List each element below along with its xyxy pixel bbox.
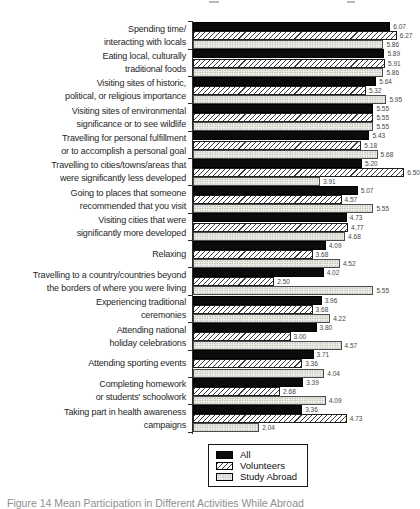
bar-all <box>193 378 303 387</box>
value-label: 3.36 <box>305 360 318 368</box>
value-label: 5.43 <box>372 132 385 140</box>
value-label: 4.57 <box>345 196 358 204</box>
legend-item-volunteers: Volunteers <box>216 460 307 471</box>
value-label: 3.36 <box>305 406 318 414</box>
axis-tick <box>188 267 192 268</box>
legend-swatch-volunteers <box>216 462 233 470</box>
value-label: 5.86 <box>386 69 399 77</box>
value-label: 5.18 <box>364 142 377 150</box>
value-label: 3.68 <box>316 251 329 259</box>
value-label: 5.68 <box>381 151 394 159</box>
category-label: Completing homeworkor students' schoolwo… <box>0 378 186 404</box>
legend-swatch-all <box>216 451 233 459</box>
value-label: 4.09 <box>329 242 342 250</box>
bar-study-abroad <box>193 68 383 77</box>
bar-all <box>193 104 373 113</box>
bar-study-abroad <box>193 341 342 350</box>
value-label: 2.68 <box>283 388 296 396</box>
bar-volunteers <box>193 414 347 423</box>
bar-all <box>193 131 369 140</box>
axis-tick <box>188 131 192 132</box>
value-label: 5.91 <box>388 60 401 68</box>
category-label: Visiting sites of historic,political, or… <box>0 77 186 103</box>
category-label: Attending nationalholiday celebrations <box>0 324 186 350</box>
bar-volunteers <box>193 387 280 396</box>
bar-volunteers <box>193 277 274 286</box>
category-label: Experiencing traditionalceremonies <box>0 296 186 322</box>
value-label: 4.73 <box>350 214 363 222</box>
axis-tick <box>188 240 192 241</box>
bar-volunteers <box>193 250 313 259</box>
axis-tick <box>188 49 192 50</box>
category-label: Spending time/interacting with locals <box>0 23 186 49</box>
value-label: 5.20 <box>365 160 378 168</box>
bar-all <box>193 241 326 250</box>
value-label: 3.68 <box>316 306 329 314</box>
value-label: 5.55 <box>376 205 389 213</box>
bar-volunteers <box>193 332 291 341</box>
value-label: 5.55 <box>376 123 389 131</box>
value-label: 3.71 <box>317 351 330 359</box>
bar-all <box>193 49 384 58</box>
axis-tick <box>188 185 192 186</box>
legend-item-study-abroad: Study Abroad <box>216 471 307 482</box>
value-label: 4.52 <box>343 260 356 268</box>
category-label: Travelling to a country/countries beyond… <box>0 269 186 295</box>
bar-study-abroad <box>193 369 324 378</box>
value-label: 2.50 <box>277 278 290 286</box>
bar-volunteers <box>193 195 342 204</box>
value-label: 5.07 <box>361 187 374 195</box>
legend-item-all: All <box>216 449 307 460</box>
value-label: 6.07 <box>393 23 406 31</box>
category-label: Attending sporting events <box>0 357 186 370</box>
bar-all <box>193 213 347 222</box>
value-label: 5.64 <box>379 78 392 86</box>
value-label: 5.86 <box>386 41 399 49</box>
bar-study-abroad <box>193 150 378 159</box>
bar-study-abroad <box>193 177 320 186</box>
category-label: Taking part in health awarenesscampaigns <box>0 406 186 432</box>
bar-study-abroad <box>193 95 386 104</box>
bar-volunteers <box>193 113 373 122</box>
category-label: Travelling to cities/towns/areas thatwer… <box>0 159 186 185</box>
value-label: 5.55 <box>376 114 389 122</box>
bar-volunteers <box>193 359 302 368</box>
legend-label-all: All <box>240 449 251 460</box>
bar-all <box>193 22 390 31</box>
axis-tick <box>188 295 192 296</box>
bar-all <box>193 159 362 168</box>
bar-study-abroad <box>193 423 259 432</box>
value-label: 5.89 <box>387 50 400 58</box>
bar-all <box>193 186 358 195</box>
legend-label-volunteers: Volunteers <box>240 460 285 471</box>
chart-legend: All Volunteers Study Abroad <box>208 444 308 487</box>
value-label: 4.22 <box>333 315 346 323</box>
value-label: 4.73 <box>350 415 363 423</box>
value-label: 3.80 <box>320 324 333 332</box>
axis-tick <box>188 377 192 378</box>
axis-tick <box>188 103 192 104</box>
axis-tick <box>188 158 192 159</box>
value-label: 3.91 <box>323 178 336 186</box>
value-label: 3.96 <box>325 297 338 305</box>
value-label: 6.27 <box>400 32 413 40</box>
value-label: 5.55 <box>376 105 389 113</box>
axis-tick <box>188 76 192 77</box>
bar-volunteers <box>193 168 404 177</box>
bar-study-abroad <box>193 40 383 49</box>
bar-volunteers <box>193 305 313 314</box>
axis-tick <box>188 213 192 214</box>
category-label: Relaxing <box>0 248 186 261</box>
bar-volunteers <box>193 141 361 150</box>
axis-tick <box>188 404 192 405</box>
bar-study-abroad <box>193 314 330 323</box>
bar-volunteers <box>193 86 366 95</box>
legend-swatch-study-abroad <box>216 473 233 481</box>
axis-tick <box>188 432 192 433</box>
value-label: 4.68 <box>348 233 361 241</box>
value-label: 3.00 <box>294 333 307 341</box>
value-label: 4.09 <box>329 397 342 405</box>
bar-volunteers <box>193 59 385 68</box>
